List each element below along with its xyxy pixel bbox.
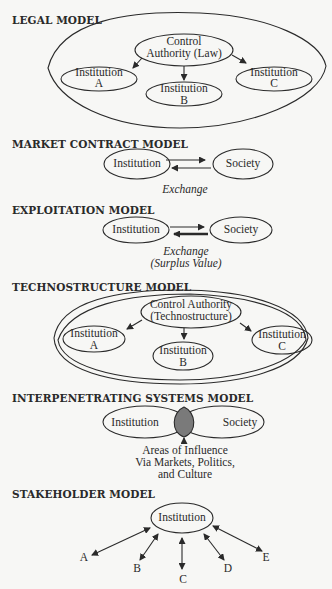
legal-inst-c-label-2: C	[270, 78, 278, 89]
market-society-label: Society	[226, 158, 261, 169]
stakeholder-institution-label: Institution	[158, 512, 205, 523]
market-contract-model-title: MARKET CONTRACT MODEL	[12, 138, 188, 150]
stakeholder-e-label: E	[262, 552, 269, 563]
legal-inst-b-label-1: Institution	[160, 83, 207, 94]
techno-inst-a-label-2: A	[90, 340, 98, 351]
legal-model-title: LEGAL MODEL	[12, 14, 102, 26]
stakeholder-c-label: C	[179, 574, 187, 585]
legal-authority-label-2: Authority (Law)	[146, 48, 222, 59]
legal-inst-b-label-2: B	[180, 95, 188, 106]
interp-overlap-label-2: Via Markets, Politics,	[135, 457, 235, 468]
interp-overlap-label-1: Areas of Influence	[142, 445, 228, 456]
techno-inst-a-label-1: Institution	[70, 328, 117, 339]
stakeholder-a-label: A	[80, 552, 88, 563]
stakeholder-d-label: D	[224, 563, 232, 574]
stakeholder-model-title: STAKEHOLDER MODEL	[12, 488, 155, 500]
techno-inst-b-label-2: B	[179, 357, 187, 368]
techno-inst-b-label-1: Institution	[159, 345, 206, 356]
legal-inst-a-label-2: A	[95, 78, 103, 89]
exploitation-society-label: Society	[224, 224, 259, 235]
interp-overlap-label-3: and Culture	[158, 469, 212, 480]
business-society-models-diagram: LEGAL MODEL Control Authority (Law) Inst…	[0, 0, 332, 589]
market-institution-label: Institution	[113, 158, 160, 169]
techno-inst-c-label-2: C	[278, 341, 286, 352]
techno-inst-c-label-1: Institution	[258, 329, 305, 340]
market-exchange-label: Exchange	[162, 184, 207, 195]
exploitation-exchange-label: Exchange	[163, 246, 208, 257]
technostructure-model-title: TECHNOSTRUCTURE MODEL	[12, 281, 191, 293]
exploitation-surplus-label: (Surplus Value)	[150, 258, 221, 269]
legal-authority-label-1: Control	[166, 36, 201, 47]
stakeholder-b-label: B	[133, 563, 141, 574]
techno-authority-label-2: (Technostructure)	[150, 311, 232, 322]
interp-institution-label: Institution	[111, 417, 158, 428]
techno-authority-label-1: Control Authority	[150, 299, 232, 310]
exploitation-model-title: EXPLOITATION MODEL	[12, 204, 154, 216]
interp-society-label: Society	[223, 417, 258, 428]
exploitation-institution-label: Institution	[112, 224, 159, 235]
interpenetrating-model-title: INTERPENETRATING SYSTEMS MODEL	[12, 392, 253, 404]
